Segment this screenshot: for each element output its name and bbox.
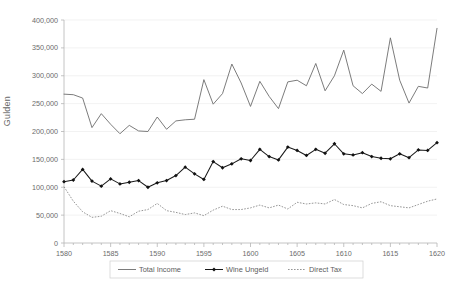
data-point-marker [155, 181, 159, 185]
y-tick-label: 200,000 [32, 127, 58, 136]
legend-item-direct-tax[interactable]: Direct Tax [288, 265, 342, 274]
chart-svg: 050,000100,000150,000200,000250,000300,0… [0, 0, 457, 290]
y-tick-label: 0 [54, 239, 58, 248]
series-wine-ungeld [64, 143, 437, 188]
chart-legend: Total IncomeWine UngeldDirect Tax [110, 261, 363, 278]
x-tick-label: 1585 [103, 249, 119, 258]
legend-item-wine-ungeld[interactable]: Wine Ungeld [205, 265, 268, 274]
plot-area: 050,000100,000150,000200,000250,000300,0… [0, 0, 457, 290]
data-point-marker [398, 152, 402, 156]
legend-label: Direct Tax [309, 265, 342, 274]
series-total-income [64, 28, 437, 133]
y-tick-label: 250,000 [32, 99, 58, 108]
data-point-marker [230, 162, 234, 166]
data-point-marker [370, 155, 374, 159]
y-tick-label: 350,000 [32, 43, 58, 52]
series-lines [62, 28, 439, 217]
chart-container: Gulden 050,000100,000150,000200,000250,0… [0, 0, 457, 290]
data-point-marker [361, 151, 365, 155]
data-point-marker [351, 153, 355, 157]
y-tick-labels: 050,000100,000150,000200,000250,000300,0… [32, 16, 58, 248]
y-tick-label: 50,000 [36, 211, 58, 220]
x-tick-labels: 158015851590159516001605161016151620 [56, 249, 445, 258]
x-tick-label: 1580 [56, 249, 72, 258]
legend-label: Wine Ungeld [226, 265, 268, 274]
x-tick-label: 1590 [149, 249, 165, 258]
legend-item-total-income[interactable]: Total Income [118, 265, 181, 274]
y-tick-label: 100,000 [32, 183, 58, 192]
data-point-marker [239, 157, 243, 161]
gridlines [64, 20, 437, 215]
y-tick-label: 300,000 [32, 71, 58, 80]
legend-label: Total Income [139, 265, 181, 274]
data-point-marker [388, 157, 392, 161]
x-tick-label: 1605 [289, 249, 305, 258]
x-tick-label: 1610 [336, 249, 352, 258]
data-point-marker [118, 182, 122, 186]
data-point-marker [165, 179, 169, 183]
x-tick-label: 1595 [196, 249, 212, 258]
data-point-marker [295, 149, 299, 153]
x-tick-label: 1600 [243, 249, 259, 258]
x-tick-label: 1615 [382, 249, 398, 258]
y-tick-label: 150,000 [32, 155, 58, 164]
data-point-marker [62, 180, 66, 184]
legend-marker-diamond [212, 268, 216, 272]
y-tick-label: 400,000 [32, 16, 58, 25]
x-tick-label: 1620 [429, 249, 445, 258]
data-point-marker [127, 180, 131, 184]
series-direct-tax [64, 187, 437, 218]
